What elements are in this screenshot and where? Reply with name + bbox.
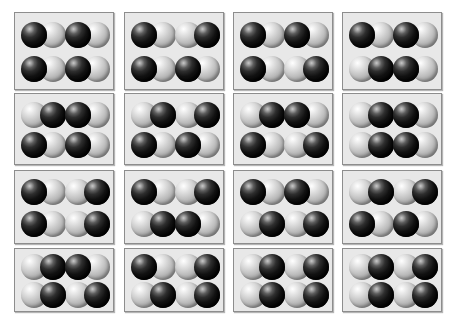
molecule-box	[14, 248, 114, 312]
diatomic-molecule	[349, 102, 394, 128]
dark-atom-icon	[40, 102, 66, 128]
diatomic-molecule	[284, 254, 329, 280]
dark-atom-icon	[240, 179, 266, 205]
dark-atom-icon	[368, 254, 394, 280]
dark-atom-icon	[84, 282, 110, 308]
dark-atom-icon	[412, 254, 438, 280]
diatomic-molecule	[65, 282, 110, 308]
diatomic-molecule	[175, 211, 220, 237]
dark-atom-icon	[131, 132, 157, 158]
dark-atom-icon	[21, 179, 47, 205]
diatomic-molecule	[349, 132, 394, 158]
dark-atom-icon	[368, 179, 394, 205]
diatomic-molecule	[131, 56, 176, 82]
diatomic-molecule	[393, 102, 438, 128]
dark-atom-icon	[284, 102, 310, 128]
dark-atom-icon	[259, 102, 285, 128]
diatomic-molecule	[240, 211, 285, 237]
diatomic-molecule	[393, 211, 438, 237]
diatomic-molecule	[393, 132, 438, 158]
diatomic-molecule	[21, 102, 66, 128]
molecule-grid	[0, 0, 452, 321]
diatomic-molecule	[240, 254, 285, 280]
molecule-box	[233, 248, 333, 312]
molecule-box-interior	[343, 94, 441, 164]
dark-atom-icon	[393, 132, 419, 158]
molecule-box	[342, 248, 442, 312]
diatomic-molecule	[349, 56, 394, 82]
dark-atom-icon	[259, 211, 285, 237]
dark-atom-icon	[65, 132, 91, 158]
diatomic-molecule	[65, 254, 110, 280]
diatomic-molecule	[65, 132, 110, 158]
diatomic-molecule	[65, 102, 110, 128]
dark-atom-icon	[175, 211, 201, 237]
dark-atom-icon	[303, 254, 329, 280]
dark-atom-icon	[150, 282, 176, 308]
dark-atom-icon	[21, 211, 47, 237]
dark-atom-icon	[240, 56, 266, 82]
dark-atom-icon	[194, 282, 220, 308]
dark-atom-icon	[368, 282, 394, 308]
diatomic-molecule	[21, 179, 66, 205]
dark-atom-icon	[65, 102, 91, 128]
dark-atom-icon	[84, 211, 110, 237]
molecule-box-interior	[234, 171, 332, 243]
diatomic-molecule	[131, 132, 176, 158]
dark-atom-icon	[412, 179, 438, 205]
dark-atom-icon	[21, 56, 47, 82]
molecule-box-interior	[125, 171, 223, 243]
diatomic-molecule	[175, 179, 220, 205]
molecule-box-interior	[234, 94, 332, 164]
diatomic-molecule	[240, 282, 285, 308]
diatomic-molecule	[131, 102, 176, 128]
diatomic-molecule	[349, 211, 394, 237]
dark-atom-icon	[303, 211, 329, 237]
dark-atom-icon	[175, 132, 201, 158]
diatomic-molecule	[284, 282, 329, 308]
molecule-box-interior	[343, 249, 441, 311]
diatomic-molecule	[240, 22, 285, 48]
diatomic-molecule	[175, 282, 220, 308]
dark-atom-icon	[131, 56, 157, 82]
molecule-box	[124, 248, 224, 312]
diatomic-molecule	[284, 22, 329, 48]
diatomic-molecule	[393, 179, 438, 205]
diatomic-molecule	[21, 211, 66, 237]
diatomic-molecule	[393, 56, 438, 82]
dark-atom-icon	[40, 254, 66, 280]
diatomic-molecule	[284, 179, 329, 205]
dark-atom-icon	[412, 282, 438, 308]
diatomic-molecule	[21, 22, 66, 48]
diatomic-molecule	[131, 282, 176, 308]
molecule-box	[124, 93, 224, 165]
molecule-box	[342, 12, 442, 90]
dark-atom-icon	[21, 132, 47, 158]
dark-atom-icon	[368, 56, 394, 82]
dark-atom-icon	[393, 102, 419, 128]
diatomic-molecule	[240, 132, 285, 158]
diatomic-molecule	[65, 211, 110, 237]
dark-atom-icon	[150, 102, 176, 128]
diatomic-molecule	[21, 282, 66, 308]
diatomic-molecule	[65, 22, 110, 48]
diatomic-molecule	[65, 179, 110, 205]
dark-atom-icon	[194, 22, 220, 48]
diatomic-molecule	[284, 56, 329, 82]
diatomic-molecule	[175, 56, 220, 82]
molecule-box	[124, 170, 224, 244]
diatomic-molecule	[240, 102, 285, 128]
molecule-box-interior	[15, 13, 113, 89]
dark-atom-icon	[40, 282, 66, 308]
dark-atom-icon	[368, 132, 394, 158]
molecule-box	[342, 170, 442, 244]
diatomic-molecule	[284, 211, 329, 237]
dark-atom-icon	[131, 179, 157, 205]
dark-atom-icon	[194, 179, 220, 205]
dark-atom-icon	[175, 56, 201, 82]
molecule-box-interior	[234, 249, 332, 311]
diatomic-molecule	[21, 132, 66, 158]
diatomic-molecule	[240, 56, 285, 82]
diatomic-molecule	[349, 179, 394, 205]
diatomic-molecule	[21, 56, 66, 82]
